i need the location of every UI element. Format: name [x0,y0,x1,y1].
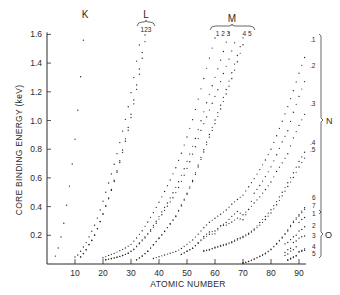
series-n1 [153,57,306,259]
y-tick-label: 1.6 [30,29,42,39]
n-shell-bracket [319,34,323,214]
y-tick-label: 1.4 [30,58,42,68]
label-n3: .3 [310,100,316,107]
x-tick-label: 80 [266,268,276,278]
label-n2: .2 [310,62,316,69]
series-n5 [203,157,305,252]
y-tick-label: 0.2 [30,230,42,240]
x-tick-label: 70 [238,268,248,278]
shell-annotations: K L 123 M 1 2 3 4 5 N O .1 .2 .3 .4 .5 6… [14,9,333,289]
x-tick-label: 50 [182,268,192,278]
series-l3 [80,41,146,258]
label-o2: 2 [312,222,316,229]
x-tick-label: 30 [126,268,136,278]
x-tick-label: 20 [98,268,108,278]
y-tick-label: 1.0 [30,116,42,126]
label-m-subshells-45: 4 5 [242,30,251,37]
o-shell-bracket [319,210,323,258]
series-m5 [136,44,244,261]
label-n5: .5 [310,146,316,153]
label-n6: 6 [312,194,316,201]
series-l2 [80,34,146,257]
label-o4: 4 [312,243,316,250]
series-l1 [74,44,140,257]
series-o3 [284,235,305,256]
x-tick-label: 60 [210,268,220,278]
label-o1: 1 [312,210,316,217]
label-o3: 3 [312,232,316,239]
series-m4 [136,37,244,260]
label-n4: .4 [310,139,316,146]
x-axis-label: ATOMIC NUMBER [150,279,225,289]
label-n-shell: N [326,116,333,126]
series-k [55,39,84,256]
series-n4 [203,152,305,252]
x-tick-label: 40 [154,268,164,278]
label-o5: 5 [312,250,316,257]
label-l-shell: L [143,9,149,20]
label-o-shell: O [325,230,332,240]
label-l-subshells: 123 [141,26,152,33]
x-tick-label: 10 [70,268,80,278]
label-k-shell: K [82,9,89,20]
y-tick-label: 0.4 [30,202,42,212]
series-m2 [105,32,230,260]
series-n2 [181,81,306,255]
axes: 0.20.40.60.81.01.21.41.61020304050607080… [30,29,306,278]
series-o4 [287,248,305,260]
label-m-shell: M [228,13,236,24]
series-n3 [181,114,306,255]
data-points [55,32,306,264]
label-n1: .1 [310,36,316,43]
x-tick-label: 90 [294,268,304,278]
label-n7: 7 [312,202,316,209]
y-tick-label: 0.6 [30,173,42,183]
y-axis-label: CORE BINDING ENERGY (keV) [14,85,24,216]
y-tick-label: 0.8 [30,144,42,154]
label-m-subshells-123: 1 2 3 [216,30,231,37]
series-m1 [102,37,215,258]
y-tick-label: 1.2 [30,87,42,97]
binding-energy-chart: 0.20.40.60.81.01.21.41.61020304050607080… [0,0,340,295]
series-m3 [105,42,235,261]
